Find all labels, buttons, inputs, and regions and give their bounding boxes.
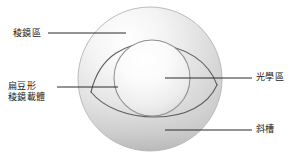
label-optic-zone: 光學區 (256, 72, 284, 83)
lens-diagram (0, 0, 300, 158)
figure-root: 稜鏡區 扁豆形 稜鏡載體 光學區 斜槽 (0, 0, 300, 158)
label-lenticular-carrier-line2: 稜鏡載體 (8, 92, 46, 103)
label-lenticular-carrier-line1: 扁豆形 (8, 81, 46, 92)
label-slot: 斜槽 (256, 124, 275, 135)
label-prism-zone: 稜鏡區 (13, 28, 41, 39)
label-lenticular-carrier: 扁豆形 稜鏡載體 (8, 81, 46, 103)
